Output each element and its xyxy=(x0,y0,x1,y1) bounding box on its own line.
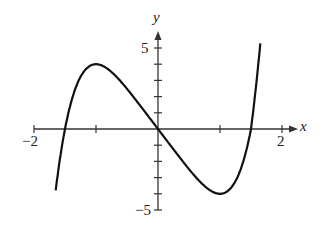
y-axis-arrow-icon xyxy=(155,31,162,40)
x-min-label: −2 xyxy=(22,134,38,149)
y-max-label: 5 xyxy=(141,41,149,56)
plot-area xyxy=(0,0,323,232)
y-min-label: −5 xyxy=(135,203,151,218)
x-max-label: 2 xyxy=(277,134,285,149)
x-axis-label: x xyxy=(300,119,307,134)
y-axis-label: y xyxy=(153,10,160,25)
chart: −2 2 5 −5 x y xyxy=(0,0,323,232)
x-axis-arrow-icon xyxy=(289,126,298,133)
